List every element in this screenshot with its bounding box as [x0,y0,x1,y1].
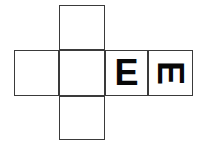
cell-row-3 [105,50,148,96]
cell-row-1 [14,50,59,96]
cell-row-2 [59,50,105,96]
cube-net-diagram: E E [0,0,203,151]
cell-bottom [59,96,105,140]
cell-row-4 [148,50,193,96]
cell-top [59,5,105,50]
